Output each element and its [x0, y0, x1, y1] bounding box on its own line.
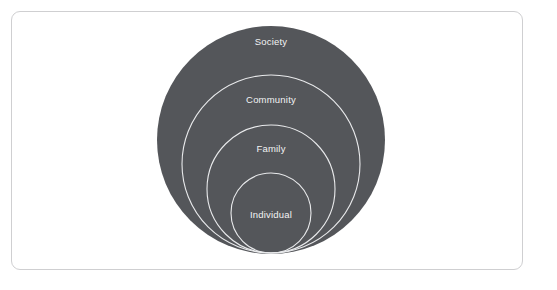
label-family: Family [256, 143, 285, 154]
label-society: Society [255, 36, 288, 47]
screenshot-root: Society Community Family Individual [0, 0, 557, 290]
diagram-canvas: Society Community Family Individual [12, 12, 524, 271]
label-community: Community [246, 94, 296, 105]
label-individual: Individual [250, 209, 292, 220]
diagram-card: Society Community Family Individual [11, 11, 523, 270]
nested-circles-diagram: Society Community Family Individual [12, 12, 524, 271]
circle-society[interactable] [157, 26, 385, 254]
